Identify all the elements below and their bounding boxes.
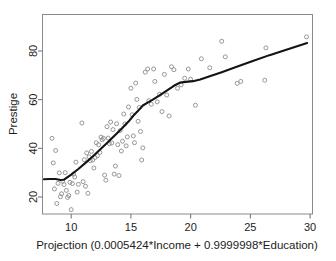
x-axis-title: Projection (0.0005424*Income + 0.9999998… [36,239,318,251]
y-tick-label: 80 [28,45,40,57]
scatter-plot-figure: 1015202530 20406080 Projection (0.000542… [0,0,336,261]
x-tick-label: 25 [244,221,256,233]
x-tick-label: 30 [304,221,316,233]
y-tick-label: 20 [28,191,40,203]
x-tick-label: 10 [65,221,77,233]
y-axis-title: Prestige [7,93,19,135]
y-tick-label: 40 [28,142,40,154]
x-tick-label: 20 [185,221,197,233]
x-tick-label: 15 [125,221,137,233]
figure-background [0,0,336,261]
y-tick-label: 60 [28,94,40,106]
plot-canvas: 1015202530 20406080 Projection (0.000542… [0,0,336,261]
